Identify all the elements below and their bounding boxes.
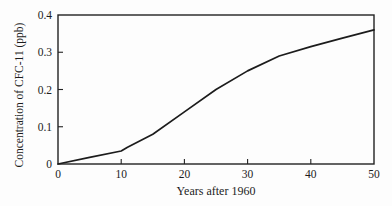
y-tick-label: 0.1	[38, 121, 53, 133]
y-tick-label: 0.3	[38, 46, 53, 58]
x-tick-label: 40	[305, 168, 317, 180]
plot-svg: 0102030405000.10.20.30.4	[0, 0, 392, 206]
data-series-line	[58, 30, 374, 164]
y-tick-label: 0	[46, 158, 52, 170]
x-tick-label: 0	[55, 168, 61, 180]
y-tick-label: 0.2	[38, 84, 53, 96]
x-axis-label: Years after 1960	[177, 184, 256, 199]
y-tick-label: 0.4	[38, 9, 53, 21]
y-axis-label: Concentration of CFC-11 (ppb)	[13, 23, 25, 168]
cfc11-concentration-chart: 0102030405000.10.20.30.4 Concentration o…	[0, 0, 392, 206]
x-tick-label: 10	[115, 168, 127, 180]
x-tick-label: 30	[242, 168, 254, 180]
x-tick-label: 20	[179, 168, 191, 180]
x-tick-label: 50	[368, 168, 380, 180]
